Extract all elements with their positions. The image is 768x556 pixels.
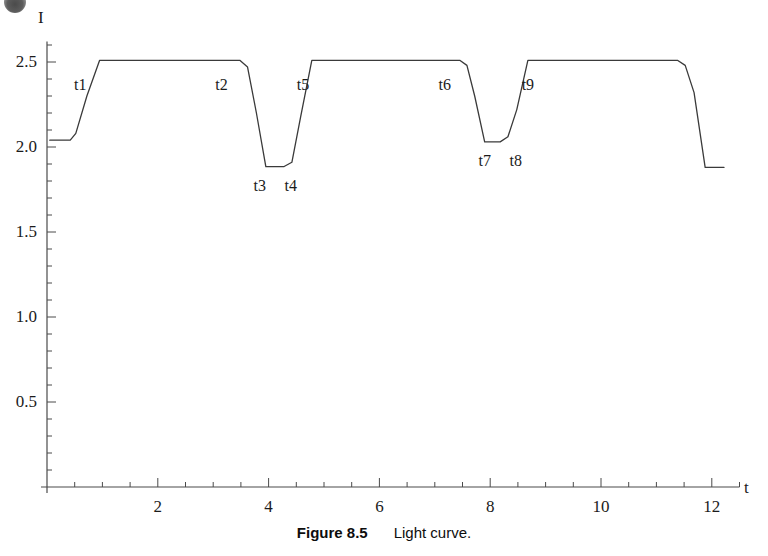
figure-caption-number: Figure 8.5 — [297, 524, 368, 541]
contact-point-label-t9: t9 — [522, 76, 534, 94]
x-tick-label: 8 — [486, 497, 495, 517]
y-tick-label: 2.0 — [16, 137, 37, 157]
contact-point-label-t7: t7 — [478, 152, 490, 170]
x-tick-label: 10 — [593, 497, 610, 517]
figure-caption-text: Light curve. — [394, 524, 472, 541]
contact-point-label-t6: t6 — [439, 76, 451, 94]
x-tick-label: 6 — [375, 497, 384, 517]
contact-point-label-t1: t1 — [74, 76, 86, 94]
y-tick-label: 2.5 — [16, 52, 37, 72]
contact-point-label-t8: t8 — [509, 152, 521, 170]
light-curve-line — [50, 60, 724, 167]
contact-point-label-t2: t2 — [215, 76, 227, 94]
light-curve-figure: I t 0.51.01.52.02.524681012 t1t2t3t4t5t6… — [0, 0, 768, 556]
x-tick-label: 12 — [703, 497, 720, 517]
axis-ticks-group — [47, 45, 740, 487]
figure-caption: Figure 8.5Light curve. — [0, 524, 768, 541]
contact-point-label-t5: t5 — [297, 76, 309, 94]
light-curve-plot — [0, 0, 768, 556]
y-tick-label: 0.5 — [16, 392, 37, 412]
x-tick-label: 4 — [264, 497, 273, 517]
contact-point-label-t3: t3 — [254, 177, 266, 195]
contact-point-label-t4: t4 — [285, 177, 297, 195]
y-tick-label: 1.5 — [16, 222, 37, 242]
axes-group — [41, 42, 740, 493]
x-tick-label: 2 — [154, 497, 163, 517]
y-tick-label: 1.0 — [16, 307, 37, 327]
